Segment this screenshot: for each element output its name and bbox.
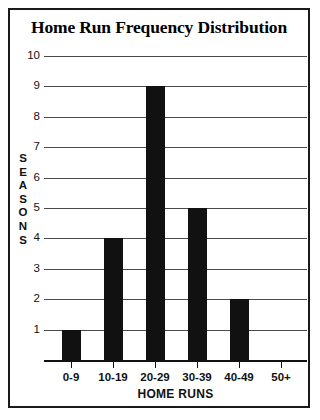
chart-frame: Home Run Frequency Distribution 12345678…: [8, 8, 310, 408]
y-axis-tick-label: 1: [20, 324, 40, 336]
gridline: [44, 330, 307, 331]
y-axis-tick-label: 8: [20, 111, 40, 123]
bar: [62, 330, 81, 360]
gridline: [44, 147, 307, 148]
x-axis-tick: [155, 360, 156, 368]
bar: [188, 208, 207, 360]
gridline: [44, 269, 307, 270]
gridline: [44, 178, 307, 179]
y-axis-title-letter: S: [16, 193, 30, 207]
gridline: [44, 56, 307, 57]
y-axis-tick-label: 9: [20, 80, 40, 92]
plot-area: 12345678910 SEASONS 0-910-1920-2930-3940…: [10, 10, 312, 410]
gridline: [44, 299, 307, 300]
bar: [230, 299, 249, 360]
gridline: [44, 117, 307, 118]
gridline: [44, 238, 307, 239]
y-axis-tick-label: 3: [20, 263, 40, 275]
y-axis-title-letter: S: [16, 152, 30, 166]
x-axis-tick: [71, 360, 72, 368]
x-axis-tick: [281, 360, 282, 368]
x-axis-tick-label: 50+: [253, 371, 309, 383]
y-axis-tick-label: 7: [20, 141, 40, 153]
y-axis-title-letter: O: [16, 206, 30, 220]
y-axis-title-letter: S: [16, 234, 30, 248]
x-axis-title: HOME RUNS: [44, 387, 307, 401]
x-axis-line: [44, 360, 307, 362]
x-axis-tick: [197, 360, 198, 368]
gridline: [44, 86, 307, 87]
x-axis-tick: [113, 360, 114, 368]
y-axis-title-letter: N: [16, 220, 30, 234]
y-axis-tick-label: 10: [20, 50, 40, 62]
y-axis-tick-label: 2: [20, 293, 40, 305]
bar: [104, 238, 123, 360]
y-axis-title: SEASONS: [16, 152, 30, 247]
gridline: [44, 208, 307, 209]
y-axis-title-letter: A: [16, 179, 30, 193]
x-axis-tick: [239, 360, 240, 368]
bar: [146, 86, 165, 360]
y-axis-title-letter: E: [16, 166, 30, 180]
